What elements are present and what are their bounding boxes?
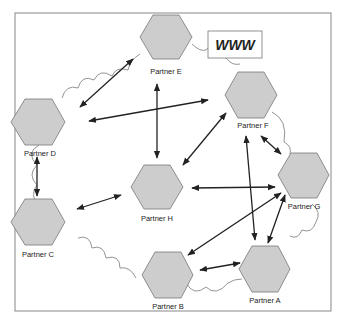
node-label: Partner D [24,149,57,158]
partner-network-diagram: WWW Partner E Partner D Partner F Pa [0,0,355,333]
node-label: Partner C [22,250,55,259]
node-label: Partner A [249,296,280,305]
www-label: WWW [215,37,256,53]
node-label: Partner G [288,202,321,211]
node-label: Partner B [152,302,184,311]
node-label: Partner H [141,214,173,223]
node-label: Partner E [150,67,182,76]
node-label: Partner F [237,121,269,130]
